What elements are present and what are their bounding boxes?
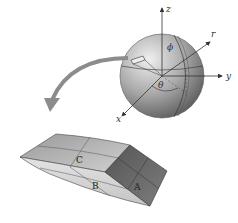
label-c: C	[76, 155, 83, 165]
theta-label: θ	[158, 80, 164, 90]
label-a: A	[133, 182, 141, 192]
magnify-arrow	[44, 58, 128, 112]
x-label: x	[116, 114, 121, 124]
phi-label: ϕ	[167, 42, 173, 52]
r-label: r	[211, 29, 216, 39]
enlarged-volume-element: C B A	[20, 134, 167, 206]
spherical-element-diagram: z y x r ϕ θ C B A	[0, 0, 238, 223]
z-label: z	[165, 4, 171, 14]
label-b: B	[92, 181, 99, 191]
y-label: y	[225, 71, 232, 81]
